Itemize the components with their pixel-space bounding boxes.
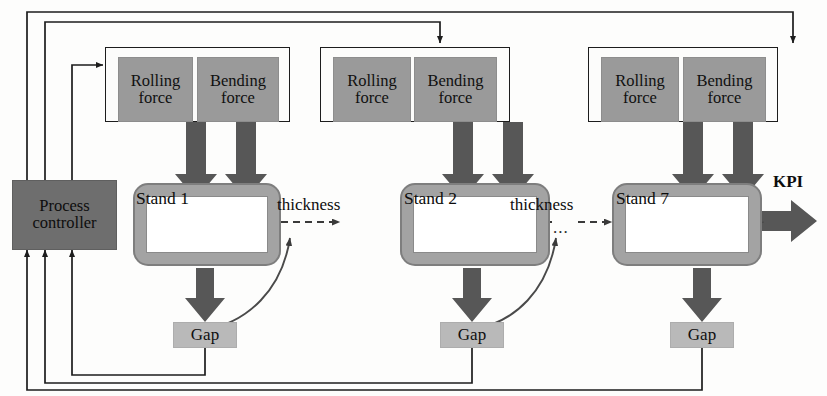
rolling-force-label-line2: force xyxy=(355,90,389,107)
bending-force-box-stand-2[interactable]: Bending force xyxy=(414,57,497,122)
diagram-canvas: Rolling force Bending force Rolling forc… xyxy=(0,0,827,396)
rolling-force-box-stand-7[interactable]: Rolling force xyxy=(601,57,679,122)
stand-series-ellipsis: ... xyxy=(553,218,569,238)
gap-label: Gap xyxy=(191,325,219,345)
rolling-force-label-line2: force xyxy=(623,90,657,107)
process-controller-box[interactable]: Process controller xyxy=(12,180,117,250)
rolling-force-box-stand-2[interactable]: Rolling force xyxy=(333,57,411,122)
stand-2-label: Stand 2 xyxy=(404,188,457,209)
rolling-force-label-line2: force xyxy=(139,90,173,107)
stand-1-label: Stand 1 xyxy=(136,188,189,209)
gap-label: Gap xyxy=(458,325,486,345)
bending-force-label-line1: Bending xyxy=(697,73,753,90)
gap-box-stand-1[interactable]: Gap xyxy=(173,322,237,348)
stand-7-label: Stand 7 xyxy=(616,188,669,209)
bending-force-label-line2: force xyxy=(221,90,255,107)
rolling-force-label-line1: Rolling xyxy=(131,73,181,90)
rolling-force-box-stand-1[interactable]: Rolling force xyxy=(118,57,193,122)
bending-force-label-line1: Bending xyxy=(428,73,484,90)
thickness-label-1: thickness xyxy=(277,195,340,215)
bending-force-label-line1: Bending xyxy=(210,73,266,90)
kpi-label: KPI xyxy=(773,172,803,192)
gap-label: Gap xyxy=(688,325,716,345)
gap-box-stand-2[interactable]: Gap xyxy=(440,322,504,348)
rolling-force-label-line1: Rolling xyxy=(347,73,397,90)
thickness-label-2: thickness xyxy=(510,195,573,215)
bending-force-box-stand-1[interactable]: Bending force xyxy=(197,57,279,122)
rolling-force-label-line1: Rolling xyxy=(615,73,665,90)
process-controller-label-line2: controller xyxy=(32,215,96,232)
bending-force-label-line2: force xyxy=(708,90,742,107)
bending-force-box-stand-7[interactable]: Bending force xyxy=(683,57,766,122)
gap-box-stand-7[interactable]: Gap xyxy=(670,322,734,348)
bending-force-label-line2: force xyxy=(439,90,473,107)
